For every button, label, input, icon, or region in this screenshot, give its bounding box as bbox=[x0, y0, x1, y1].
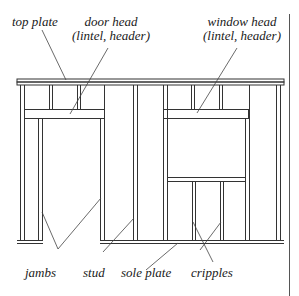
label-door-head-line2: (lintel, header) bbox=[70, 29, 152, 43]
label-cripples: cripples bbox=[191, 266, 233, 280]
end-stud-left bbox=[21, 85, 25, 240]
window-cripple-bottom bbox=[193, 181, 196, 240]
label-sole-plate: sole plate bbox=[121, 266, 171, 280]
leader-cripples-right bbox=[200, 222, 221, 250]
sole-plate-left bbox=[17, 241, 43, 244]
top-plate bbox=[17, 79, 284, 85]
leader-jambs-right bbox=[58, 198, 101, 249]
window-sill bbox=[167, 178, 246, 182]
leader-stud bbox=[103, 218, 134, 252]
label-door-head-line1: door head bbox=[70, 15, 152, 29]
wall-framing-diagram bbox=[0, 0, 299, 296]
leader-cripples-left bbox=[193, 222, 213, 262]
stud bbox=[134, 85, 138, 240]
leader-lines bbox=[42, 30, 237, 270]
label-stud: stud bbox=[83, 266, 105, 280]
door-jamb-right bbox=[101, 85, 105, 240]
window-king-stud-left bbox=[164, 85, 168, 240]
label-window-head-line1: window head bbox=[200, 15, 284, 29]
door-jamb-left bbox=[39, 118, 43, 240]
window-cripple-top bbox=[220, 85, 223, 109]
label-window-head: window head (lintel, header) bbox=[200, 15, 284, 43]
end-stud-right bbox=[277, 85, 281, 240]
sole-plate-right bbox=[100, 241, 284, 244]
label-top-plate: top plate bbox=[12, 15, 58, 29]
leader-jambs-left bbox=[42, 212, 58, 249]
leader-window-head bbox=[197, 48, 237, 113]
window-cripple-bottom bbox=[221, 181, 224, 240]
door-cripple bbox=[50, 85, 53, 109]
door-header bbox=[25, 110, 105, 119]
label-jambs: jambs bbox=[25, 266, 56, 280]
window-header bbox=[164, 110, 249, 119]
window-king-stud-right bbox=[246, 85, 250, 240]
label-window-head-line2: (lintel, header) bbox=[200, 29, 284, 43]
leader-top-plate bbox=[42, 30, 66, 80]
label-door-head: door head (lintel, header) bbox=[70, 15, 152, 43]
window-cripple-top bbox=[192, 85, 195, 109]
leader-door-head bbox=[70, 48, 108, 114]
